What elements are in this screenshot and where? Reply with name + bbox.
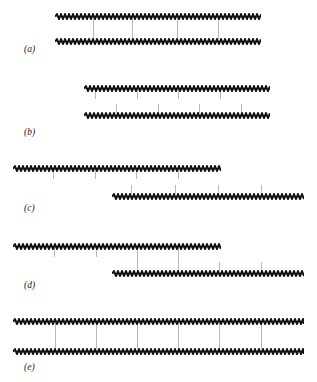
hydrogen-bond-connector	[93, 18, 94, 39]
bottom-strand	[112, 270, 304, 277]
panel-label-a: (a)	[24, 44, 35, 54]
hydrogen-bond-connector	[132, 18, 133, 39]
top-strand	[13, 318, 304, 325]
panel-label-e: (e)	[24, 362, 35, 372]
figure-container: (a)(b)(c)(d)(e)	[0, 0, 317, 382]
hydrogen-bond-connector	[178, 248, 179, 271]
hydrogen-bond-connector	[137, 248, 138, 271]
hydrogen-bond-connector	[219, 323, 220, 349]
panel-label-d: (d)	[24, 280, 35, 290]
top-strand	[55, 13, 261, 20]
hydrogen-bond-connector	[177, 18, 178, 39]
bottom-strand	[13, 348, 304, 355]
panel-label-c: (c)	[24, 203, 35, 213]
bottom-strand	[112, 193, 304, 200]
hydrogen-bond-connector	[178, 323, 179, 349]
bottom-strand	[55, 38, 261, 45]
top-strand	[13, 165, 221, 172]
hydrogen-bond-connector	[55, 323, 56, 349]
hydrogen-bond-connector	[218, 18, 219, 39]
hydrogen-bond-connector	[137, 323, 138, 349]
hydrogen-bond-connector	[96, 323, 97, 349]
top-strand	[84, 85, 270, 92]
bottom-strand	[84, 112, 270, 119]
panel-label-b: (b)	[24, 127, 35, 137]
hydrogen-bond-connector	[261, 323, 262, 349]
top-strand	[13, 243, 221, 250]
